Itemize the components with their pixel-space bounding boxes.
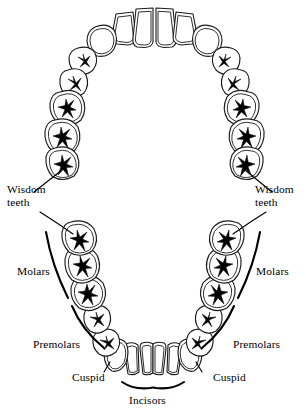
upper-left-cuspid-inner (90, 28, 114, 53)
label-incisors: Incisors (129, 394, 166, 407)
label-cuspid-left: Cuspid (72, 371, 105, 384)
upper-left-lateral-incisor-inner (115, 16, 134, 43)
label-wisdom-teeth-left: Wisdom teeth (7, 183, 46, 208)
upper-right-lateral-incisor-inner (176, 16, 195, 43)
label-premolars-left: Premolars (33, 338, 80, 351)
upper-left-wisdom-tooth (46, 147, 79, 180)
dental-arch-diagram: Wisdom teeth Wisdom teeth Molars Molars … (0, 0, 306, 420)
upper-right-cuspid-inner (195, 28, 219, 53)
upper-incisor-group (112, 8, 197, 48)
lower-left-wisdom-tooth (62, 221, 97, 255)
label-premolars-right: Premolars (233, 338, 280, 351)
lower-arch (46, 221, 260, 388)
label-wisdom-teeth-right-line1: Wisdom (255, 183, 294, 196)
label-wisdom-teeth-right-line2: teeth (255, 196, 294, 209)
upper-right-central-incisor-inner (158, 11, 174, 45)
lower-right-wisdom-tooth (209, 221, 244, 255)
label-wisdom-teeth-left-line1: Wisdom (7, 183, 46, 196)
upper-left-central-incisor-inner (135, 11, 151, 45)
incisors-brace (122, 382, 184, 388)
lower-incisor-group (124, 342, 182, 375)
upper-right-wisdom-tooth (230, 147, 263, 180)
label-molars-left: Molars (17, 265, 50, 278)
label-cuspid-right: Cuspid (213, 371, 246, 384)
upper-arch (45, 8, 264, 180)
label-molars-right: Molars (256, 265, 289, 278)
label-wisdom-teeth-left-line2: teeth (7, 196, 46, 209)
dental-arch-illustration (0, 0, 306, 420)
label-wisdom-teeth-right: Wisdom teeth (255, 183, 294, 208)
